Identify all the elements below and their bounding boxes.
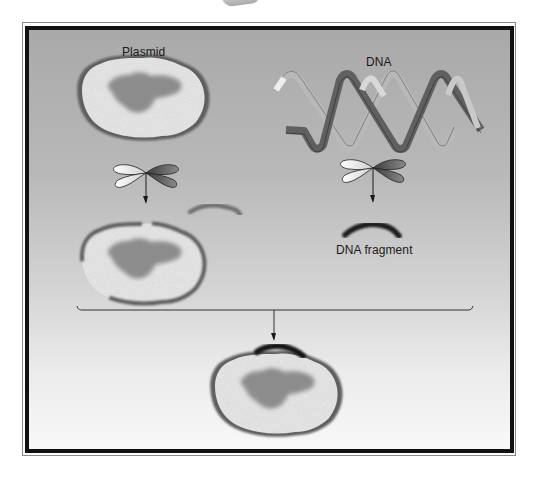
dna-double-helix [276,71,481,152]
arrow-down-right [370,169,375,203]
arrow-down-left [143,174,148,204]
plasmid-excised-segment [190,205,240,214]
arrow-down-center [271,333,276,341]
recombinant-plasmid [210,346,342,437]
cut-plasmid [82,223,205,303]
label-dna-fragment: DNA fragment [336,243,413,257]
label-dna: DNA [366,55,392,69]
diagram-artwork [0,0,538,477]
plasmid [77,54,209,140]
label-plasmid: Plasmid [122,45,165,59]
dna-fragment [345,224,399,236]
